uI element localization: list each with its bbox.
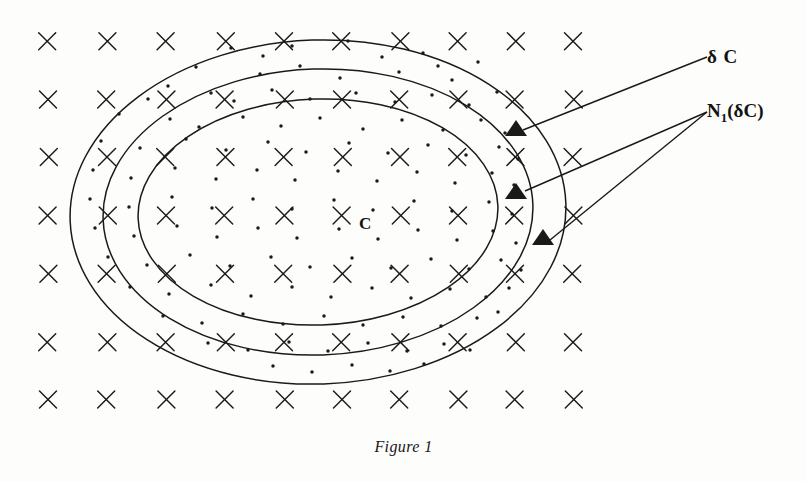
point-dot (258, 72, 262, 76)
x-mark (98, 265, 115, 282)
point-dot (215, 235, 219, 239)
ellipse-outer (64, 31, 572, 392)
point-dot (266, 140, 270, 144)
x-mark (98, 91, 115, 108)
point-dot (487, 200, 491, 204)
point-dot (295, 236, 299, 240)
point-dot (326, 349, 330, 353)
point-dot (184, 137, 188, 141)
point-dot (251, 197, 255, 201)
point-dot (261, 54, 265, 58)
point-dot (516, 157, 520, 161)
point-dot (337, 227, 341, 231)
point-dot (495, 90, 499, 94)
point-dot (354, 91, 358, 95)
x-mark (392, 207, 409, 224)
x-mark (565, 33, 582, 50)
point-dot (491, 229, 495, 233)
point-dot (400, 118, 404, 122)
point-dot (393, 100, 397, 104)
point-dot (436, 64, 440, 68)
point-dot (279, 124, 283, 128)
point-dot (426, 143, 430, 147)
x-mark (275, 149, 292, 166)
point-dot (514, 241, 518, 245)
point-dot (318, 116, 322, 120)
point-dot (422, 362, 426, 366)
x-mark (217, 265, 234, 282)
point-dot (166, 84, 170, 88)
leader-line (523, 57, 707, 130)
point-dot (361, 323, 365, 327)
figure-canvas (0, 0, 807, 482)
x-mark (333, 207, 350, 224)
point-dot (401, 315, 405, 319)
point-dot (138, 146, 142, 150)
boundary-triangle (505, 183, 527, 199)
figure-page: δ C N1(δC) C Figure 1 (0, 0, 807, 482)
point-dot (161, 314, 165, 318)
point-dot (246, 348, 250, 352)
point-dot (188, 253, 192, 257)
x-mark (275, 265, 292, 282)
point-dot (168, 117, 172, 121)
point-dot (453, 181, 457, 185)
point-dot (197, 125, 201, 129)
x-mark-grid (39, 33, 583, 408)
neighborhood-label-suffix: (δC) (727, 100, 763, 121)
x-mark (565, 91, 582, 108)
point-dot (507, 286, 511, 290)
point-dot (376, 237, 380, 241)
point-dot (366, 341, 370, 345)
point-dot (329, 295, 333, 299)
x-mark (157, 334, 174, 351)
point-dot (467, 103, 471, 107)
point-dot (450, 209, 454, 213)
x-mark (158, 391, 175, 408)
point-dot (170, 195, 174, 199)
point-dot (210, 206, 214, 210)
point-dot (350, 256, 354, 260)
point-dot (490, 171, 494, 175)
point-dot (214, 177, 218, 181)
point-dot (127, 205, 131, 209)
x-mark (217, 334, 234, 351)
neighborhood-label: N1(δC) (707, 101, 763, 124)
set-center-label: C (359, 215, 371, 232)
point-dot (209, 283, 213, 287)
boundary-triangle (505, 120, 527, 136)
point-dot (484, 295, 488, 299)
x-mark (565, 334, 582, 351)
point-dot (308, 97, 312, 101)
x-mark (507, 33, 524, 50)
x-mark (564, 265, 581, 282)
point-dot (370, 286, 374, 290)
x-mark (98, 391, 115, 408)
x-mark (449, 149, 466, 166)
x-mark (40, 391, 57, 408)
ellipse-contours (64, 31, 572, 392)
point-dot (450, 78, 454, 82)
point-dot (232, 99, 236, 103)
point-dot (388, 369, 392, 373)
x-mark (450, 91, 467, 108)
x-mark (333, 334, 350, 351)
point-dot (499, 258, 503, 262)
x-mark (334, 149, 351, 166)
point-dot (455, 238, 459, 242)
point-dot (310, 370, 314, 374)
point-dot (281, 322, 285, 326)
x-mark (158, 265, 175, 282)
point-dot (338, 76, 342, 80)
point-dot (194, 65, 198, 69)
point-dot (464, 153, 468, 157)
point-dot (361, 127, 365, 131)
point-dot (106, 255, 110, 259)
x-mark (39, 33, 56, 50)
point-dot (322, 314, 326, 318)
point-dot (298, 64, 302, 68)
point-dot (448, 287, 452, 291)
point-dot (287, 340, 291, 344)
point-dot (415, 170, 419, 174)
point-dot (308, 265, 312, 269)
